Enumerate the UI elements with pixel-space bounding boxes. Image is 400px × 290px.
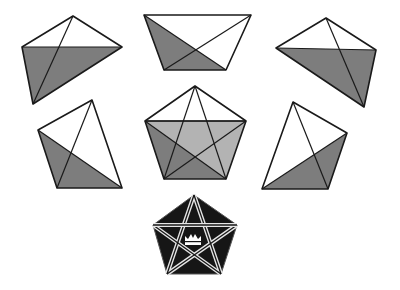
piece-top-center bbox=[144, 15, 251, 70]
crown-band bbox=[185, 241, 201, 242]
pentagram-emblem bbox=[153, 195, 237, 274]
assembled-pentagon bbox=[145, 86, 246, 179]
shaded-triangle bbox=[276, 48, 376, 107]
piece-middle-right bbox=[262, 102, 347, 189]
pentagon-dissection-diagram bbox=[0, 0, 400, 290]
piece-top-right bbox=[276, 18, 376, 107]
piece-middle-left bbox=[38, 100, 122, 188]
piece-top-left bbox=[22, 16, 122, 104]
